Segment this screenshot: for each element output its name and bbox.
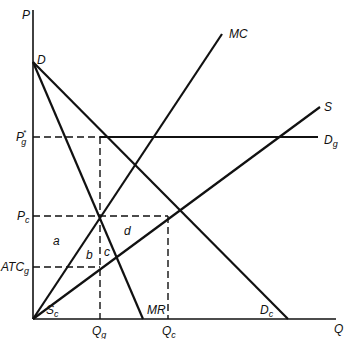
- qc-label: Qc: [162, 324, 176, 339]
- dc-label: Dc: [260, 303, 274, 319]
- area-d-label: d: [124, 224, 131, 238]
- area-b-label: b: [86, 248, 93, 262]
- sc-label: Sc: [46, 303, 59, 319]
- mc-label: MC: [229, 27, 248, 41]
- atcg-label: ATCg: [0, 260, 29, 276]
- y-axis-label: P: [22, 8, 30, 22]
- pc-label: Pc: [17, 209, 30, 225]
- area-a-label: a: [53, 234, 60, 248]
- economics-diagram: P Q D MC S Dg Dc MR Sc P*g Pc ATCg Qg Qc…: [0, 0, 345, 339]
- pg-star-label: P*g: [16, 128, 27, 147]
- dg-label: Dg: [324, 133, 338, 149]
- mc-curve: [33, 34, 222, 319]
- qg-label: Qg: [92, 324, 106, 339]
- mr-curve: [33, 62, 143, 319]
- s-label: S: [324, 100, 332, 114]
- x-axis-label: Q: [334, 322, 343, 336]
- d-label: D: [37, 53, 46, 67]
- mr-label: MR: [147, 303, 166, 317]
- area-c-label: c: [104, 245, 110, 259]
- s-supply-curve: [33, 107, 320, 319]
- dc-demand-curve: [33, 62, 288, 319]
